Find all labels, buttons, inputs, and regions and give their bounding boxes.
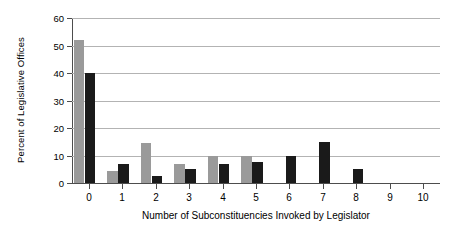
y-axis-tick-label: 60 <box>53 13 64 24</box>
x-axis-tick-mark <box>156 184 157 189</box>
bar <box>152 176 163 183</box>
bar <box>118 164 129 183</box>
bar <box>174 164 185 183</box>
bar <box>353 169 364 183</box>
bar <box>208 156 219 184</box>
bars-layer <box>72 18 440 183</box>
y-axis-tick-label: 20 <box>53 123 64 134</box>
bar <box>252 162 263 183</box>
x-axis-tick-label: 6 <box>286 192 292 203</box>
x-axis-tick-mark <box>122 184 123 189</box>
x-axis-title: Number of Subconstituencies Invoked by L… <box>72 210 440 221</box>
x-axis-tick-label: 7 <box>320 192 326 203</box>
x-axis-tick-mark <box>89 184 90 189</box>
x-axis-tick-mark <box>256 184 257 189</box>
plot-area: 0102030405060 012345678910 <box>72 18 440 183</box>
x-axis-tick-label: 4 <box>220 192 226 203</box>
y-axis-tick-label: 0 <box>59 178 64 189</box>
bar <box>219 164 230 183</box>
bar <box>286 156 297 184</box>
x-axis-tick-label: 5 <box>253 192 259 203</box>
y-axis-tick-label: 50 <box>53 40 64 51</box>
x-axis-tick-mark <box>189 184 190 189</box>
bar <box>141 143 152 183</box>
x-axis-tick-label: 8 <box>353 192 359 203</box>
bar <box>185 169 196 183</box>
x-axis-tick-label: 3 <box>186 192 192 203</box>
x-axis-tick-mark <box>223 184 224 189</box>
y-axis-tick-label: 10 <box>53 150 64 161</box>
y-axis-title: Percent of Legislative Offices <box>14 0 28 200</box>
bar-chart-figure: Percent of Legislative Offices 010203040… <box>0 0 459 233</box>
x-axis-tick-label: 1 <box>119 192 125 203</box>
x-axis-tick-mark <box>323 184 324 189</box>
x-axis-tick-label: 9 <box>387 192 393 203</box>
x-axis-tick-mark <box>289 184 290 189</box>
y-axis-tick-mark <box>67 183 72 184</box>
x-axis-tick-label: 2 <box>153 192 159 203</box>
x-axis-tick-mark <box>423 184 424 189</box>
bar <box>319 142 330 183</box>
x-axis-tick-mark <box>356 184 357 189</box>
x-axis-tick-mark <box>390 184 391 189</box>
y-axis-tick-label: 30 <box>53 95 64 106</box>
bar <box>241 156 252 184</box>
bar <box>74 40 85 183</box>
x-axis-tick-label: 10 <box>417 192 428 203</box>
bar <box>107 171 118 183</box>
bar <box>85 73 96 183</box>
x-axis-tick-label: 0 <box>86 192 92 203</box>
y-axis-tick-label: 40 <box>53 68 64 79</box>
